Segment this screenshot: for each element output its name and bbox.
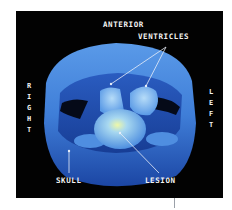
image-frame: ANTERIOR VENTRICLES RIGHT LEFT SKULL LES…: [16, 11, 223, 198]
label-skull: SKULL: [56, 176, 82, 185]
brain-rendering: [16, 11, 223, 198]
label-left: LEFT: [207, 87, 215, 131]
label-anterior: ANTERIOR: [103, 20, 144, 29]
label-right: RIGHT: [25, 81, 33, 136]
label-lesion: LESION: [145, 176, 176, 185]
lesion-pointer-tail: [174, 198, 175, 208]
label-ventricles: VENTRICLES: [138, 32, 189, 41]
